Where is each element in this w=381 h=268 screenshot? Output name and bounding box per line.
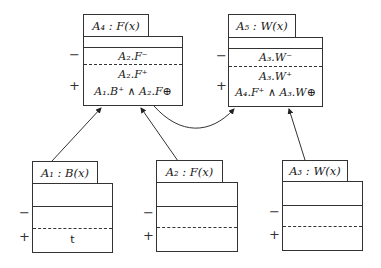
node-a2-plus-sign: + — [143, 228, 153, 243]
node-a3-label: A₃ : W(x) — [282, 160, 348, 182]
node-a2 — [156, 182, 238, 252]
node-a4-pos-2: A₁.B⁺ ∧ A₂.F⊕ — [84, 85, 182, 98]
node-a1-plus-sign: + — [19, 229, 29, 244]
node-a4-pos-1: A₂.F⁺ — [84, 68, 182, 81]
node-a1-divider — [33, 206, 112, 207]
node-a3-dashed-divider — [283, 226, 362, 227]
node-a4-label: A₄ : F(x) — [83, 14, 149, 37]
edge-a3-to-a5 — [289, 109, 305, 160]
node-a4-label-text: A₄ : F(x) — [92, 19, 140, 33]
node-a1: t — [32, 183, 113, 253]
node-a4-plus-sign: + — [69, 78, 79, 93]
node-a3 — [282, 181, 363, 251]
node-a5-minus-sign: − — [216, 48, 226, 63]
node-a4-minus-sign: − — [69, 47, 79, 62]
node-a5-pos-2: A₄.F⁺ ∧ A₃.W⊕ — [229, 86, 322, 99]
node-a5-neg-1: A₃.W⁻ — [229, 51, 322, 64]
node-a3-label-text: A₃ : W(x) — [289, 164, 340, 178]
edge-a1-to-a4 — [52, 108, 101, 161]
node-a3-divider — [283, 205, 362, 206]
node-a1-minus-sign: − — [19, 205, 29, 220]
node-a2-divider — [157, 206, 237, 207]
node-a2-label-text: A₂ : F(x) — [166, 165, 214, 179]
node-a1-pos-1: t — [33, 233, 112, 246]
diagram-canvas: A₄ : F(x) A₂.F⁻ A₂.F⁺ A₁.B⁺ ∧ A₂.F⊕ − + … — [0, 0, 381, 268]
node-a5-label: A₅ : W(x) — [228, 14, 296, 38]
node-a4-divider — [84, 47, 182, 48]
node-a1-label-text: A₁ : B(x) — [41, 166, 89, 180]
node-a5-divider — [229, 48, 322, 49]
node-a5-dashed-divider — [229, 66, 322, 67]
node-a1-dashed-divider — [33, 228, 112, 229]
node-a3-minus-sign: − — [269, 204, 279, 219]
edge-a2-to-a4 — [141, 108, 178, 161]
node-a5-label-text: A₅ : W(x) — [236, 19, 287, 33]
node-a2-minus-sign: − — [143, 205, 153, 220]
node-a5: A₃.W⁻ A₃.W⁺ A₄.F⁺ ∧ A₃.W⊕ — [228, 37, 323, 107]
node-a2-label: A₂ : F(x) — [156, 160, 223, 183]
edge-a4-to-a5 — [154, 106, 234, 128]
node-a4-neg-1: A₂.F⁻ — [84, 50, 182, 63]
node-a5-plus-sign: + — [216, 78, 226, 93]
node-a4-dashed-divider — [84, 64, 182, 65]
node-a4: A₂.F⁻ A₂.F⁺ A₁.B⁺ ∧ A₂.F⊕ — [83, 36, 183, 106]
node-a1-label: A₁ : B(x) — [32, 161, 98, 184]
node-a5-pos-1: A₃.W⁺ — [229, 70, 322, 83]
node-a3-plus-sign: + — [269, 227, 279, 242]
node-a2-dashed-divider — [157, 227, 237, 228]
